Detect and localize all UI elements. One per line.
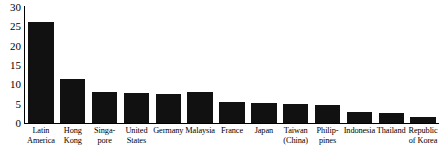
x-axis-tick-label: Republic of Korea <box>407 126 439 145</box>
y-axis-tick-label: 5 <box>0 98 21 109</box>
bar-slot <box>184 7 216 123</box>
x-axis-tick-label: France <box>216 126 248 145</box>
bar <box>187 92 212 123</box>
bar-slot <box>25 7 57 123</box>
bar-slot <box>121 7 153 123</box>
y-axis-tick-label: 25 <box>0 21 21 32</box>
bar <box>315 105 340 123</box>
bar-slot <box>248 7 280 123</box>
x-axis-tick-label: Latin America <box>25 126 57 145</box>
bar <box>60 79 85 123</box>
x-axis-line <box>24 123 439 124</box>
bar-slot <box>407 7 439 123</box>
bar-slot <box>89 7 121 123</box>
bar-slot <box>57 7 89 123</box>
bar-slot <box>152 7 184 123</box>
x-axis-tick-labels: Latin AmericaHong KongSinga- poreUnited … <box>25 126 439 145</box>
bar <box>379 113 404 123</box>
x-axis-tick-label: Philip- pines <box>312 126 344 145</box>
bar-slot <box>312 7 344 123</box>
bar-slot <box>216 7 248 123</box>
y-axis-tick-label: 10 <box>0 79 21 90</box>
bar <box>219 102 244 123</box>
bar-chart: 302520151050 Latin AmericaHong KongSinga… <box>0 0 441 152</box>
bar <box>92 92 117 123</box>
bar <box>347 112 372 123</box>
x-axis-tick-label: Singa- pore <box>89 126 121 145</box>
bar <box>156 94 181 123</box>
bar <box>283 104 308 123</box>
x-axis-tick-label: Taiwan (China) <box>280 126 312 145</box>
bar <box>251 103 276 123</box>
bar-series <box>25 7 439 123</box>
y-axis-tick-label: 20 <box>0 40 21 51</box>
x-axis-tick-label: Malaysia <box>184 126 216 145</box>
bar <box>410 117 435 123</box>
x-axis-tick-label: Indonesia <box>343 126 375 145</box>
x-axis-tick-label: United States <box>121 126 153 145</box>
x-axis-tick-label: Thailand <box>375 126 407 145</box>
x-axis-tick-label: Germany <box>152 126 184 145</box>
bar-slot <box>375 7 407 123</box>
bar-slot <box>343 7 375 123</box>
x-axis-tick-label: Japan <box>248 126 280 145</box>
x-axis-tick-label: Hong Kong <box>57 126 89 145</box>
bar-slot <box>280 7 312 123</box>
bar <box>124 93 149 123</box>
bar <box>28 22 53 123</box>
y-axis-tick-label: 15 <box>0 60 21 71</box>
y-axis-tick-label: 30 <box>0 2 21 13</box>
y-axis-tick-label: 0 <box>0 118 21 129</box>
